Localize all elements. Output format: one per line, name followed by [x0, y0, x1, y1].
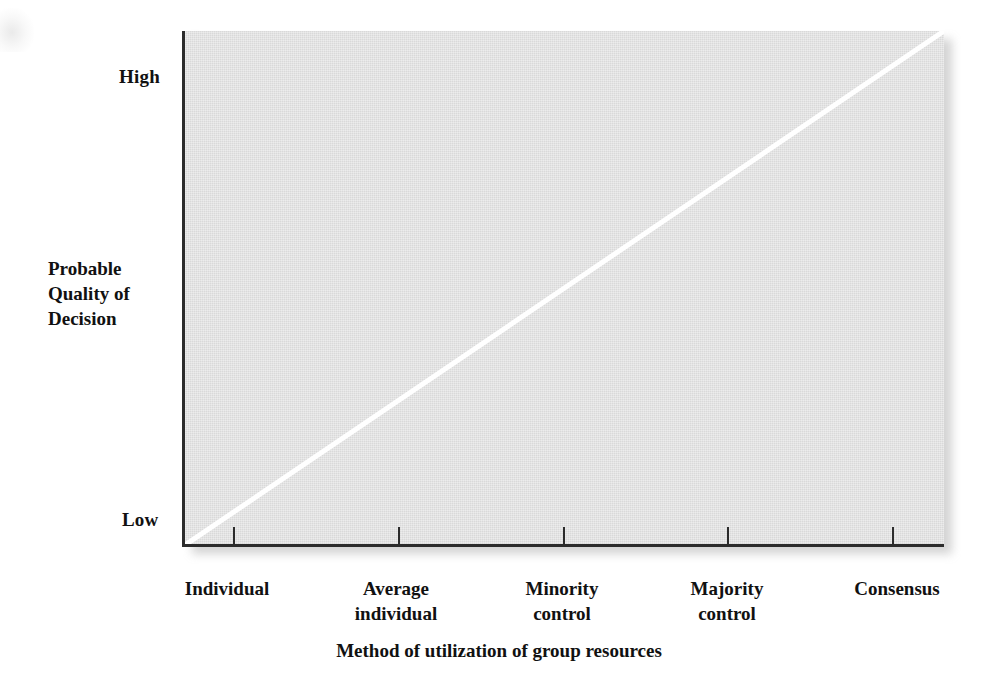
x-tick-label-consensus-line-1: Consensus — [854, 576, 940, 601]
x-tick-label-majority-control-line-2: control — [691, 601, 764, 626]
x-tick-label-majority-control: Majority control — [691, 576, 764, 626]
trend-line — [185, 31, 944, 545]
x-tick-label-minority-control-line-2: control — [526, 601, 599, 626]
x-tick-label-minority-control-line-1: Minority — [526, 576, 599, 601]
x-axis-title: Method of utilization of group resources — [0, 640, 998, 662]
y-axis-line — [182, 31, 185, 547]
x-tick-label-consensus: Consensus — [854, 576, 940, 601]
x-tick-label-individual: Individual — [185, 576, 270, 601]
x-tick-label-minority-control: Minority control — [526, 576, 599, 626]
y-axis-title-line-3: Decision — [48, 306, 130, 331]
y-axis-title-line-1: Probable — [48, 256, 130, 281]
x-axis-tick-average-individual — [398, 527, 400, 545]
x-axis-tick-minority-control — [563, 527, 565, 545]
x-axis-tick-majority-control — [727, 527, 729, 545]
x-tick-label-average-individual-line-2: individual — [355, 601, 437, 626]
x-tick-label-average-individual-line-1: Average — [355, 576, 437, 601]
x-axis-tick-individual — [233, 527, 235, 545]
y-axis-label-low: Low — [122, 509, 159, 531]
plot-area — [185, 31, 944, 545]
x-tick-label-individual-line-1: Individual — [185, 576, 270, 601]
y-axis-title-line-2: Quality of — [48, 281, 130, 306]
y-axis-title: Probable Quality of Decision — [48, 256, 130, 331]
y-axis-label-high: High — [119, 66, 160, 88]
chart-figure: High Low Probable Quality of Decision In… — [0, 0, 998, 675]
x-tick-label-average-individual: Average individual — [355, 576, 437, 626]
x-axis-tick-consensus — [892, 527, 894, 545]
scan-artifact — [0, 8, 34, 52]
x-tick-label-majority-control-line-1: Majority — [691, 576, 764, 601]
trend-line-svg — [185, 31, 944, 545]
